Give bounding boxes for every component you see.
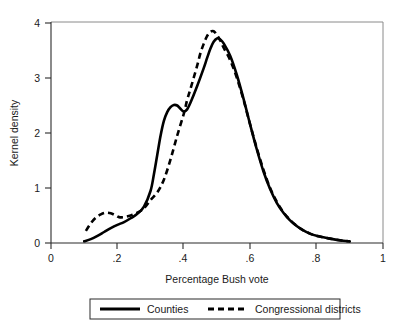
y-axis-title: Kernel density [8, 99, 20, 166]
x-tick-label-02: .2 [113, 252, 122, 264]
x-tick-label-08: .8 [312, 252, 321, 264]
legend-label-congressional-districts: Congressional districts [255, 303, 361, 315]
y-tick-label-1: 1 [34, 182, 40, 194]
chart-svg: 4 3 2 1 0 0 .2 .4 .6 .8 1 Percentage Bus… [0, 0, 405, 330]
y-tick-label-3: 3 [34, 72, 40, 84]
y-tick-label-0: 0 [34, 237, 40, 249]
y-tick-label-2: 2 [34, 127, 40, 139]
x-tick-label-06: .6 [246, 252, 255, 264]
kernel-density-chart: 4 3 2 1 0 0 .2 .4 .6 .8 1 Percentage Bus… [0, 0, 405, 330]
x-tick-label-04: .4 [179, 252, 188, 264]
x-axis-title: Percentage Bush vote [165, 273, 268, 285]
chart-legend: Counties Congressional districts [90, 299, 361, 319]
x-tick-label-0: 0 [48, 252, 54, 264]
legend-label-counties: Counties [147, 303, 188, 315]
y-tick-label-4: 4 [34, 17, 40, 29]
x-tick-label-1: 1 [380, 252, 386, 264]
